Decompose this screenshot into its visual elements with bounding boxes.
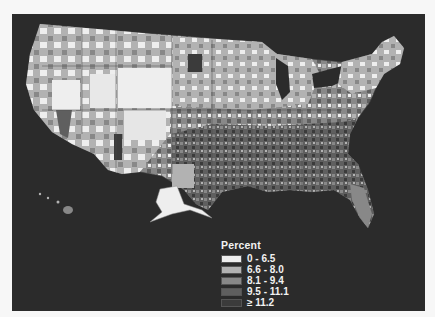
legend-swatch <box>221 299 242 307</box>
map-legend: Percent 0 - 6.5 6.6 - 8.0 8.1 - 9.4 9.5 … <box>221 239 289 308</box>
hawaii <box>39 193 73 214</box>
map-panel: Percent 0 - 6.5 6.6 - 8.0 8.1 - 9.4 9.5 … <box>12 14 425 311</box>
legend-item: ≥ 11.2 <box>221 297 289 308</box>
legend-label: 0 - 6.5 <box>247 253 275 264</box>
legend-swatch <box>221 288 242 296</box>
legend-item: 0 - 6.5 <box>221 253 289 264</box>
legend-swatch <box>221 266 242 274</box>
legend-title: Percent <box>221 239 289 251</box>
legend-item: 6.6 - 8.0 <box>221 264 289 275</box>
legend-label: 9.5 - 11.1 <box>247 286 289 297</box>
legend-swatch <box>221 255 242 263</box>
legend-label: ≥ 11.2 <box>247 297 274 308</box>
us-county-map <box>12 14 425 311</box>
legend-label: 8.1 - 9.4 <box>247 275 284 286</box>
legend-swatch <box>221 277 242 285</box>
legend-item: 8.1 - 9.4 <box>221 275 289 286</box>
legend-item: 9.5 - 11.1 <box>221 286 289 297</box>
legend-label: 6.6 - 8.0 <box>247 264 284 275</box>
